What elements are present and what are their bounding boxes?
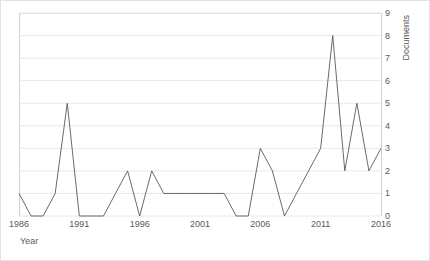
x-tick-label: 2011 (311, 220, 330, 229)
y-axis-line (381, 13, 382, 216)
x-tick-label: 1991 (69, 220, 89, 229)
x-tick-label: 1986 (9, 220, 29, 229)
y-axis-title-label: Documents (401, 15, 411, 61)
x-tick-label: 2006 (250, 220, 270, 229)
x-axis: 1986199119962001200620112016 (19, 216, 381, 234)
series-polyline (19, 36, 381, 216)
y-tick-label: 7 (385, 54, 390, 63)
x-axis-title-label: Year (20, 237, 38, 246)
x-tick-label: 1996 (130, 220, 150, 229)
y-tick-label: 4 (385, 121, 390, 130)
x-tick-label: 2001 (190, 220, 210, 229)
y-tick-label: 5 (385, 99, 390, 108)
plot-area (19, 13, 381, 216)
y-axis-title: Documents (399, 13, 413, 216)
y-tick-label: 2 (385, 166, 390, 175)
chart-figure: 0123456789 Documents 1986199119962001200… (0, 0, 430, 261)
y-tick-label: 1 (385, 189, 390, 198)
y-tick-label: 6 (385, 76, 390, 85)
y-axis: 0123456789 (381, 13, 401, 216)
y-tick-label: 9 (385, 9, 390, 18)
y-tick-label: 3 (385, 144, 390, 153)
y-tick-label: 8 (385, 31, 390, 40)
data-series-line (19, 13, 381, 216)
x-tick-label: 2016 (371, 220, 391, 229)
